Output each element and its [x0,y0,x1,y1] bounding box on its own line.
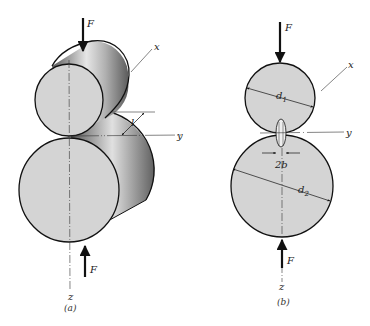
panel-b: y x z d1 d2 2b F F (b) [231,22,354,307]
panel-a-caption: (a) [64,303,77,313]
panel-b-caption: (b) [277,297,290,307]
force-bottom-label: F [89,264,98,275]
contact-width-label: 2b [274,159,288,170]
panel-a: z y x l F F (a) [19,18,183,313]
z-axis-label: z [67,291,74,302]
x-axis-line [131,49,152,72]
y-axis-label: y [345,127,352,138]
length-label: l [131,117,134,128]
force-bottom-label: F [286,255,295,266]
force-top-label: F [86,18,95,29]
x-axis-label: x [348,59,354,70]
force-top-label: F [284,22,293,33]
bottom-cylinder-face [19,138,119,242]
x-axis-line [321,67,347,91]
z-axis-label: z [278,281,285,292]
x-axis-label: x [154,41,160,52]
two-cylinders-contact-diagram: z y x l F F (a) y x z [0,0,370,326]
y-axis-label: y [176,130,183,141]
